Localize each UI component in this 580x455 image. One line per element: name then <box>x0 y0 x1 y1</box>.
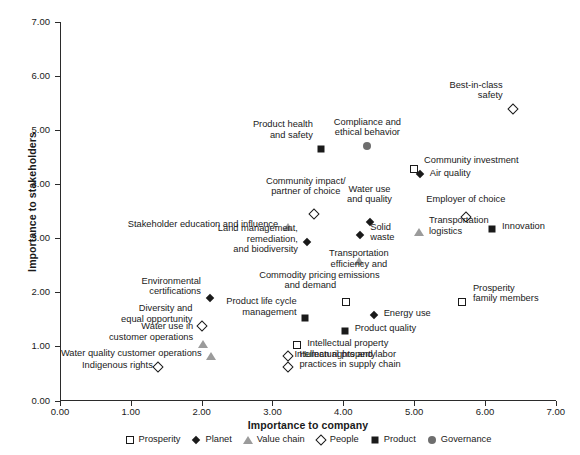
legend-item-people[interactable]: People <box>316 434 359 445</box>
x-tick-label: 2.00 <box>179 407 225 417</box>
open-diamond-icon <box>316 435 326 445</box>
open-square-icon <box>458 298 466 306</box>
point-label: Product health and safety <box>0 119 313 140</box>
filled-diamond-icon <box>356 230 364 238</box>
chart-legend: ProsperityPlanetValue chainPeopleProduct… <box>60 434 556 445</box>
gray-circle-icon <box>427 435 437 445</box>
legend-item-prosperity[interactable]: Prosperity <box>125 434 181 445</box>
open-square-icon <box>125 435 135 445</box>
open-diamond-icon <box>282 350 293 361</box>
x-axis-line <box>60 400 556 401</box>
filled-diamond-icon <box>303 237 311 245</box>
gray-triangle-icon <box>206 352 216 360</box>
filled-diamond-icon <box>370 310 378 318</box>
filled-diamond-icon <box>416 170 424 178</box>
point-label: Community investment <box>424 155 580 166</box>
filled-diamond-icon-glyph <box>192 435 200 443</box>
filled-square-icon <box>370 435 380 445</box>
open-diamond-icon <box>153 361 164 372</box>
legend-label: People <box>330 434 359 445</box>
x-axis-title: Importance to company <box>60 419 556 431</box>
legend-label: Planet <box>205 434 231 445</box>
point-label: Solid waste <box>370 222 580 243</box>
legend-item-product[interactable]: Product <box>370 434 416 445</box>
gray-circle-icon <box>363 142 371 150</box>
point-label: Environmental certifications <box>0 276 201 297</box>
legend-item-planet[interactable]: Planet <box>191 434 231 445</box>
legend-label: Governance <box>441 434 492 445</box>
point-label: Employer of choice <box>356 194 576 205</box>
x-tick-label: 3.00 <box>249 407 295 417</box>
open-diamond-icon <box>282 361 293 372</box>
x-tick-label: 0.00 <box>37 407 83 417</box>
open-diamond-icon <box>196 321 207 332</box>
gray-triangle-icon <box>243 435 253 445</box>
y-tick-label: 7.00 <box>8 17 50 27</box>
gray-circle-icon-glyph <box>428 436 436 444</box>
y-tick-mark <box>55 76 60 77</box>
x-tick-label: 7.00 <box>533 407 579 417</box>
filled-square-icon <box>318 145 325 152</box>
y-tick-label: 0.00 <box>8 396 50 406</box>
open-square-icon <box>342 298 350 306</box>
x-tick-label: 4.00 <box>320 407 366 417</box>
gray-triangle-icon <box>198 340 208 348</box>
point-label: Human rights and labor practices in supp… <box>299 349 580 370</box>
x-tick-label: 5.00 <box>391 407 437 417</box>
x-tick-label: 6.00 <box>462 407 508 417</box>
legend-item-governance[interactable]: Governance <box>427 434 492 445</box>
filled-diamond-icon <box>191 435 201 445</box>
point-label: Indigenous rights <box>0 360 153 371</box>
filled-square-icon <box>341 327 348 334</box>
open-diamond-icon <box>309 208 320 219</box>
open-diamond-icon-glyph <box>315 434 326 445</box>
y-tick-mark <box>55 22 60 23</box>
point-label: Product quality <box>355 323 580 334</box>
point-label: Prosperity family members <box>473 283 580 304</box>
point-label: Water quality customer operations <box>0 348 202 359</box>
x-tick-label: 1.00 <box>108 407 154 417</box>
filled-square-icon <box>302 315 309 322</box>
legend-label: Prosperity <box>139 434 181 445</box>
legend-item-value-chain[interactable]: Value chain <box>243 434 305 445</box>
point-label: Water use in customer operations <box>0 321 193 342</box>
legend-label: Product <box>384 434 416 445</box>
point-label: Best-in-class safety <box>0 80 503 101</box>
legend-label: Value chain <box>257 434 305 445</box>
open-square-icon-glyph <box>126 436 134 444</box>
point-label: Intellectual property <box>307 338 580 349</box>
point-label: Air quality <box>430 168 580 179</box>
gray-triangle-icon-glyph <box>243 436 253 444</box>
filled-square-icon-glyph <box>371 436 378 443</box>
point-label: Energy use <box>384 308 580 319</box>
y-tick-mark <box>55 184 60 185</box>
materiality-matrix-chart: 0.001.002.003.004.005.006.007.00 0.001.0… <box>0 0 580 455</box>
open-diamond-icon <box>507 103 518 114</box>
